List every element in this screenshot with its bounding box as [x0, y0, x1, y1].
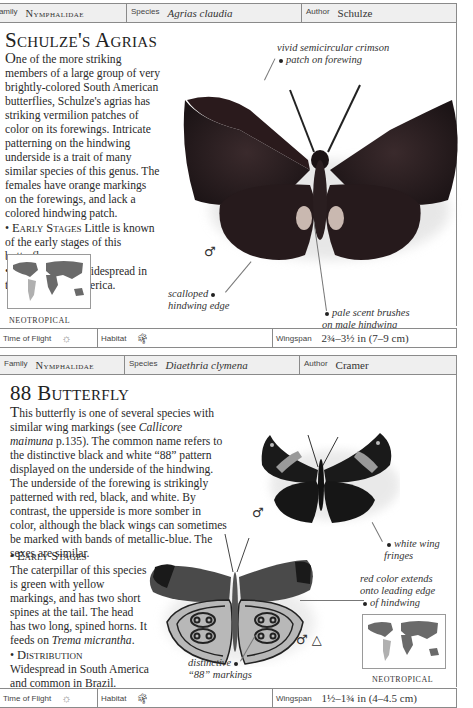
sun-icon: ☼ [61, 692, 71, 704]
sun-icon: ☼ [61, 332, 71, 344]
leader-dot [387, 543, 391, 547]
male-symbol: ♂ [204, 244, 216, 259]
leader-dot [279, 59, 283, 63]
family-cell: Family Nymphalidae [0, 356, 125, 374]
wingspan-cell: Wingspan 2¾–3½ in (7–9 cm) [273, 329, 456, 347]
agrias-claudia-illustration [180, 60, 465, 270]
distribution-label: Distribution [17, 648, 83, 662]
bullet: • [5, 222, 12, 235]
species-value: Diaethria clymena [165, 359, 247, 371]
author-value: Cramer [336, 359, 369, 371]
dropcap: T [10, 404, 19, 420]
habitat-cell: Habitat 🌴︎ [98, 689, 273, 707]
family-cell: Family Nymphalidae [0, 4, 127, 22]
species-footer: Time of Flight ☼ Habitat 🌴︎ Wingspan 2¾–… [0, 328, 457, 348]
species-cell: Species Diaethria clymena [125, 356, 300, 374]
world-map-icon [363, 615, 445, 668]
description-continued: • Early StagesThe caterpillar of this sp… [10, 549, 150, 691]
leader-dot [234, 662, 238, 666]
species-footer: Time of Flight ☼ Habitat 🌴︎ Wingspan 1½–… [0, 688, 457, 708]
map-label: NEOTROPICAL [9, 316, 70, 325]
annotation-crimson-patch: vivid semicircular crimson patch on fore… [277, 42, 389, 66]
habitat-label: Habitat [101, 334, 126, 343]
time-of-flight-label: Time of Flight [3, 694, 51, 703]
leader-dot [363, 602, 367, 606]
wingspan-cell: Wingspan 1½–1¾ in (4–4.5 cm) [273, 689, 456, 707]
food-plant: Trema micrantha [52, 634, 132, 647]
species-label: Species [131, 7, 159, 16]
world-map-icon [8, 255, 90, 308]
map-label: NEOTROPICAL [372, 675, 433, 684]
sex-symbols: ♂ △ [296, 632, 322, 647]
annotation-red-color: red color extends onto leading edge of h… [360, 573, 435, 609]
leader-line [300, 600, 364, 601]
annotation-white-fringes: white wing fringes [384, 538, 440, 562]
male-symbol: ♂ [252, 505, 264, 520]
annotation-scalloped-edge: scalloped hindwing edge [168, 288, 230, 312]
habitat-cell: Habitat 🌴︎ [98, 329, 273, 347]
author-value: Schulze [338, 7, 373, 19]
author-cell: Author Schulze [302, 4, 456, 22]
distribution-map [7, 254, 91, 309]
author-label: Author [306, 7, 330, 16]
species-value: Agrias claudia [167, 7, 232, 19]
distribution-map [362, 614, 446, 669]
palm-tree-icon: 🌴︎ [136, 333, 149, 344]
family-value: Nymphalidae [36, 360, 94, 371]
species-header: Family Nymphalidae Species Diaethria cly… [0, 355, 457, 375]
page-title: Schulze's Agrias [5, 28, 157, 53]
early-stages-label: Early Stages [12, 221, 82, 235]
dropcap: O [5, 50, 16, 66]
bullet: • [10, 550, 17, 563]
author-label: Author [304, 359, 328, 368]
species-cell: Species Agrias claudia [127, 4, 302, 22]
wingspan-label: Wingspan [276, 694, 312, 703]
wingspan-value: 1½–1¾ in (4–4.5 cm) [322, 692, 417, 704]
wingspan-label: Wingspan [276, 334, 312, 343]
description-text: ne of the more striking members of a lar… [5, 53, 160, 220]
annotation-88-markings: distinctive “88” markings [188, 657, 252, 681]
wingspan-value: 2¾–3½ in (7–9 cm) [322, 332, 409, 344]
family-value: Nymphalidae [26, 8, 84, 19]
diaethria-upperside-illustration [250, 405, 400, 530]
leader-dot [211, 293, 215, 297]
time-of-flight-cell: Time of Flight ☼ [0, 329, 98, 347]
early-stages-label: Early Stages [17, 549, 87, 563]
author-cell: Author Cramer [300, 356, 456, 374]
time-of-flight-label: Time of Flight [3, 334, 51, 343]
species-label: Species [129, 359, 157, 368]
bullet: • [10, 649, 17, 662]
species-header: Family Nymphalidae Species Agrias claudi… [0, 3, 457, 23]
page-title: 88 Butterfly [10, 381, 129, 406]
family-label: Family [4, 359, 28, 368]
habitat-label: Habitat [101, 694, 126, 703]
family-label: Family [0, 7, 18, 16]
time-of-flight-cell: Time of Flight ☼ [0, 689, 98, 707]
palm-tree-icon: 🌴︎ [136, 693, 149, 704]
right-border [456, 375, 457, 687]
leader-dot [325, 312, 329, 316]
